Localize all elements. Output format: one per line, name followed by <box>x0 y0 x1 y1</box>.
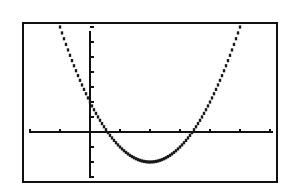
curve-pixel <box>71 59 73 62</box>
curve-pixel <box>77 74 79 77</box>
curve-pixel <box>189 134 191 137</box>
curve-pixel <box>63 37 65 40</box>
graph-plot <box>0 0 286 195</box>
curve-pixel <box>99 119 101 122</box>
curve-pixel <box>207 104 209 107</box>
curve-pixel <box>229 54 231 57</box>
curve-pixel <box>219 79 221 82</box>
curve-pixel <box>87 96 89 99</box>
curve-pixel <box>69 54 71 57</box>
curve-pixel <box>239 25 241 28</box>
curve-pixel <box>227 59 229 62</box>
curve-pixel <box>209 100 211 103</box>
curve-pixel <box>223 69 225 72</box>
curve-pixel <box>59 25 61 28</box>
curve-pixel <box>193 128 195 131</box>
curve-pixel <box>89 100 91 103</box>
screen-frame <box>23 23 277 182</box>
curve-pixel <box>225 64 227 67</box>
curve-pixel <box>191 131 193 134</box>
curve-pixel <box>65 43 67 46</box>
curve-pixel <box>83 88 85 91</box>
curve-pixel <box>233 43 235 46</box>
curve-pixel <box>79 79 81 82</box>
curve-pixel <box>215 88 217 91</box>
curve-pixel <box>235 37 237 40</box>
curve-pixel <box>73 64 75 67</box>
curve-pixel <box>67 48 69 51</box>
curve-pixel <box>97 115 99 118</box>
axes <box>29 27 273 178</box>
curve-pixel <box>199 119 201 122</box>
curve-pixel <box>195 125 197 128</box>
curve-pixel <box>103 125 105 128</box>
graph-screen: y = x^2 - 4x + 2 <box>0 0 286 195</box>
curve-pixel <box>85 92 87 95</box>
curve-pixel <box>221 74 223 77</box>
curve-pixel <box>231 48 233 51</box>
curve-pixel <box>93 108 95 111</box>
curve-pixel <box>95 112 97 115</box>
curve-pixel <box>101 122 103 125</box>
curve-pixel <box>211 96 213 99</box>
curve-pixel <box>81 83 83 86</box>
curve-pixel <box>205 108 207 111</box>
curve-pixel <box>75 69 77 72</box>
curve-pixel <box>203 112 205 115</box>
curve-pixel <box>91 104 93 107</box>
curve-pixel <box>197 122 199 125</box>
curve-pixel <box>237 31 239 34</box>
curve-pixel <box>201 115 203 118</box>
curve-pixel <box>61 31 63 34</box>
curve-pixel <box>213 92 215 95</box>
curve-pixel <box>105 128 107 131</box>
curve-pixel <box>107 131 109 134</box>
parabola-curve <box>59 25 241 163</box>
curve-pixel <box>217 83 219 86</box>
